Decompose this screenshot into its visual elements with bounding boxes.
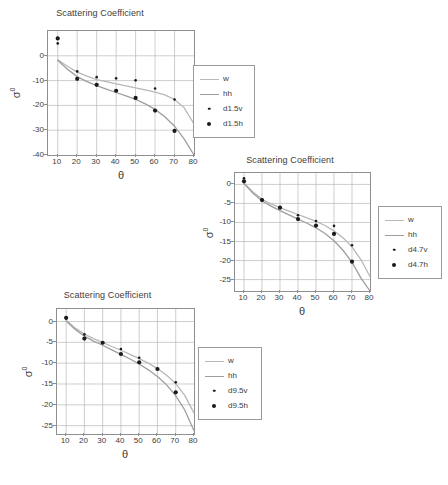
y-tick-label: 0 (212, 179, 231, 188)
x-tick-label: 60 (329, 293, 338, 302)
y-tick-mark (53, 404, 56, 405)
plot-area (56, 308, 195, 435)
x-tick-mark (120, 433, 121, 436)
x-tick-label: 40 (115, 436, 124, 445)
chart-panel-d4-7: Scattering Coefficient θ σ0 102030405060… (205, 155, 385, 325)
legend-row: hh (203, 368, 257, 383)
y-axis-label: σ0 (22, 367, 34, 378)
x-tick-label: 10 (239, 293, 248, 302)
x-axis-label: θ (122, 448, 128, 460)
legend-row: hh (383, 227, 437, 242)
x-tick-label: 80 (189, 436, 198, 445)
y-tick-mark (231, 183, 234, 184)
y-tick-label: -20 (34, 399, 53, 408)
legend-label: w (225, 356, 234, 365)
legend-row: d1.5h (198, 116, 250, 131)
legend-line (200, 79, 219, 80)
chart-title: Scattering Coefficient (205, 155, 375, 165)
legend-marker-swatch (203, 385, 225, 397)
x-tick-label: 30 (91, 157, 100, 166)
y-tick-label: -10 (25, 75, 44, 84)
chart-title: Scattering Coefficient (20, 290, 195, 300)
y-tick-label: -10 (212, 217, 231, 226)
x-tick-label: 20 (79, 436, 88, 445)
legend-label: d1.5h (220, 119, 243, 128)
x-tick-mark (135, 154, 136, 157)
x-tick-label: 70 (170, 436, 179, 445)
legend-label: d4.7v (405, 245, 428, 254)
x-tick-label: 50 (311, 293, 320, 302)
legend-row: d9.5h (203, 398, 257, 413)
x-tick-mark (369, 290, 370, 293)
legend-line (385, 235, 404, 236)
chart-panel-d9-5: Scattering Coefficient θ σ0 102030405060… (20, 290, 205, 470)
x-tick-mark (315, 290, 316, 293)
legend-label: w (220, 74, 229, 83)
y-tick-label: 0 (34, 316, 53, 325)
legend-line-swatch (203, 355, 225, 367)
legend-label: d4.7h (405, 260, 428, 269)
y-tick-label: -25 (34, 420, 53, 429)
y-tick-label: -5 (34, 337, 53, 346)
legend-line (385, 220, 404, 221)
y-tick-mark (44, 104, 47, 105)
y-tick-mark (53, 383, 56, 384)
legend-row: d1.5v (198, 101, 250, 116)
legend-dot (393, 248, 396, 251)
x-tick-mark (193, 154, 194, 157)
y-tick-label: -40 (25, 150, 44, 159)
y-tick-label: -20 (212, 255, 231, 264)
x-tick-label: 60 (152, 436, 161, 445)
x-tick-mark (297, 290, 298, 293)
y-tick-label: -20 (25, 100, 44, 109)
x-tick-mark (115, 154, 116, 157)
plot-area (47, 30, 195, 156)
legend-row: d9.5v (203, 383, 257, 398)
x-tick-mark (174, 154, 175, 157)
y-tick-mark (231, 202, 234, 203)
x-tick-mark (102, 433, 103, 436)
y-tick-label: 0 (25, 50, 44, 59)
legend-row: d4.7h (383, 257, 437, 272)
legend-label: d1.5v (220, 104, 243, 113)
x-tick-mark (193, 433, 194, 436)
x-tick-mark (96, 154, 97, 157)
legend-marker-swatch (383, 244, 405, 256)
y-tick-mark (231, 279, 234, 280)
legend-label: hh (220, 89, 232, 98)
x-tick-mark (156, 433, 157, 436)
y-tick-mark (53, 362, 56, 363)
legend-row: w (383, 212, 437, 227)
legend-label: w (405, 215, 414, 224)
y-tick-label: -15 (212, 236, 231, 245)
y-tick-mark (44, 154, 47, 155)
x-tick-label: 10 (61, 436, 70, 445)
x-tick-label: 50 (130, 157, 139, 166)
x-tick-mark (279, 290, 280, 293)
plot-area (234, 172, 371, 292)
y-tick-label: -10 (34, 358, 53, 367)
y-tick-mark (44, 80, 47, 81)
legend-marker-swatch (383, 259, 405, 271)
x-tick-label: 20 (257, 293, 266, 302)
legend-label: d9.5h (225, 401, 248, 410)
legend-dot (392, 263, 396, 267)
x-tick-mark (154, 154, 155, 157)
legend-marker-swatch (198, 103, 220, 115)
legend-line (205, 361, 224, 362)
y-tick-mark (53, 341, 56, 342)
x-tick-mark (333, 290, 334, 293)
y-tick-mark (231, 221, 234, 222)
x-tick-label: 30 (275, 293, 284, 302)
legend-dot (207, 122, 211, 126)
legend-line (200, 94, 219, 95)
legend-dot (208, 107, 211, 110)
x-tick-label: 30 (97, 436, 106, 445)
chart-panel-d1-5: Scattering Coefficient θ σ0 102030405060… (0, 8, 200, 183)
legend-label: d9.5v (225, 386, 248, 395)
legend-row: d4.7v (383, 242, 437, 257)
x-tick-label: 50 (134, 436, 143, 445)
legend-row: hh (198, 86, 250, 101)
x-tick-label: 80 (365, 293, 374, 302)
chart-legend-d4-7: whhd4.7vd4.7h (378, 206, 442, 279)
